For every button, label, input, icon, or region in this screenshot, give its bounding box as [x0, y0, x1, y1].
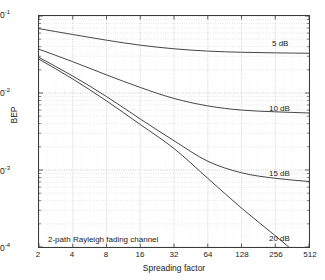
x-tick-label-8: 512	[303, 251, 316, 259]
curve-5-db	[39, 29, 309, 54]
y-tick-exponent: -4	[5, 242, 10, 248]
curve-15-db	[39, 57, 309, 181]
x-tick-label-2: 8	[104, 251, 108, 259]
series-label-15db: 15 dB	[269, 170, 290, 178]
y-tick-label-3: 10-4	[0, 244, 10, 253]
channel-annotation: 2-path Rayleigh fading channel	[48, 236, 158, 244]
x-tick-label-6: 128	[235, 251, 248, 259]
series-label-5db: 5 dB	[272, 40, 288, 48]
y-tick-label-2: 10-3	[0, 167, 10, 176]
series-label-10db: 10 dB	[269, 105, 290, 113]
y-tick-exponent: -2	[5, 87, 10, 93]
x-tick-label-3: 16	[136, 251, 145, 259]
y-tick-label-0: 10-1	[0, 11, 10, 20]
figure: BEP 10-1 10-2 10-3 10-4 2 4 8 16 32 64 1…	[0, 0, 325, 280]
x-tick-label-0: 2	[36, 251, 40, 259]
plot-area	[38, 15, 310, 248]
x-axis-label: Spreading factor	[38, 263, 310, 273]
curve-20-db	[39, 59, 309, 247]
y-axis-label: BEP	[9, 95, 19, 135]
data-curves	[39, 16, 309, 247]
y-tick-exponent: -1	[5, 9, 10, 15]
series-label-20db: 20 dB	[269, 235, 290, 243]
y-tick-exponent: -3	[5, 165, 10, 171]
x-tick-label-5: 64	[204, 251, 213, 259]
x-tick-label-7: 256	[269, 251, 282, 259]
x-tick-label-4: 32	[170, 251, 179, 259]
x-tick-label-1: 4	[70, 251, 74, 259]
y-tick-label-1: 10-2	[0, 89, 10, 98]
